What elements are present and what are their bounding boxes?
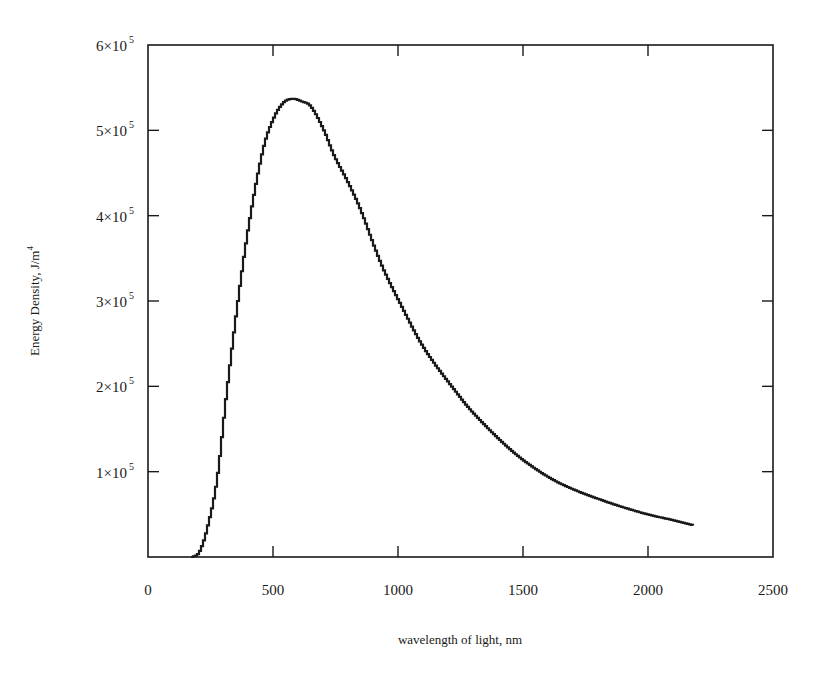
- y-tick-label: 6×105: [96, 37, 134, 54]
- y-tick-label: 5×105: [96, 122, 134, 139]
- x-tick-label: 1500: [508, 583, 538, 598]
- y-tick-mantissa: 5×10: [96, 123, 127, 139]
- y-tick-mantissa: 1×10: [96, 465, 127, 481]
- x-axis-label: wavelength of light, nm: [398, 632, 522, 648]
- axes-frame: [148, 45, 773, 557]
- axis-ticks: [148, 45, 773, 557]
- y-tick-mantissa: 6×10: [96, 38, 127, 54]
- plot-frame: [148, 45, 773, 557]
- y-tick-mantissa: 3×10: [96, 294, 127, 310]
- x-tick-label: 2000: [633, 583, 663, 598]
- y-tick-mantissa: 4×10: [96, 209, 127, 225]
- x-tick-label: 1000: [383, 583, 413, 598]
- y-tick-exponent: 5: [129, 375, 134, 386]
- chart-figure: 1×1052×1053×1054×1055×1056×105 050010001…: [0, 0, 823, 681]
- data-series: [191, 99, 693, 557]
- energy-density-curve: [191, 99, 693, 557]
- y-axis-label-superscript: 4: [25, 246, 35, 251]
- y-tick-mantissa: 2×10: [96, 379, 127, 395]
- y-tick-exponent: 5: [129, 290, 134, 301]
- y-axis-label: Energy Density, J/m4: [25, 246, 42, 356]
- x-tick-label: 500: [262, 583, 285, 598]
- x-tick-label: 2500: [758, 583, 788, 598]
- plot-area: [0, 0, 823, 681]
- y-tick-label: 2×105: [96, 378, 134, 395]
- y-tick-label: 1×105: [96, 464, 134, 481]
- y-axis-label-text: Energy Density, J/m: [27, 251, 42, 356]
- y-tick-label: 4×105: [96, 208, 134, 225]
- y-tick-exponent: 5: [129, 461, 134, 472]
- y-tick-exponent: 5: [129, 205, 134, 216]
- x-tick-label: 0: [144, 583, 152, 598]
- y-tick-exponent: 5: [129, 119, 134, 130]
- y-tick-label: 3×105: [96, 293, 134, 310]
- y-tick-exponent: 5: [129, 34, 134, 45]
